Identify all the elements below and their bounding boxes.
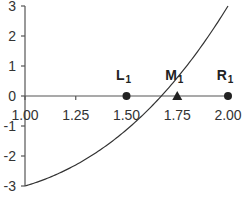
y-tick-label: 2 (8, 28, 16, 44)
x-tick-label: 1.25 (62, 107, 89, 123)
y-tick-label: 3 (8, 0, 16, 14)
y-tick-label: 1 (8, 58, 16, 74)
y-tick-label: 0 (8, 88, 16, 104)
bisection-chart: 3210-1-2-3 1.001.251.501.752.00 L1M1R1 (0, 0, 243, 201)
y-tick-label: -2 (4, 148, 17, 164)
x-tick-label: 1.75 (164, 107, 191, 123)
y-tick-labels: 3210-1-2-3 (4, 0, 17, 194)
x-tick-label: 2.00 (214, 107, 241, 123)
marker-m-label: M1 (165, 67, 184, 85)
x-tick-label: 1.00 (11, 107, 38, 123)
marker-l-label: L1 (116, 67, 132, 85)
y-tick-label: -3 (4, 178, 17, 194)
marker-r-point (224, 92, 232, 100)
marker-r-label: R1 (217, 67, 234, 85)
x-tick-labels: 1.001.251.501.752.00 (11, 107, 241, 123)
markers: L1M1R1 (116, 67, 234, 100)
marker-l-point (123, 92, 131, 100)
